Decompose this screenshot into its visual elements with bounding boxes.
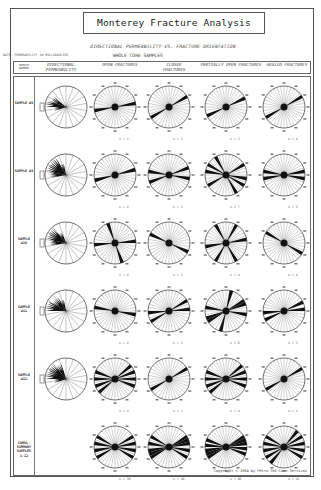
healed-fractures-rose-diagram	[258, 149, 310, 205]
sample-count-label: n = 2	[119, 341, 129, 345]
permeability-rose-diagram	[38, 217, 94, 273]
permeability-rose-diagram	[38, 353, 94, 409]
sample-count-label: n = 3	[288, 341, 298, 345]
sample-count-label: n = 4	[119, 409, 129, 413]
header-healed-fractures: HEALED FRACTURES	[266, 62, 308, 75]
partial-fractures-rose-diagram	[200, 149, 252, 205]
sample-count-label: n = 4	[288, 137, 298, 141]
sample-count-label: n = 4	[230, 409, 240, 413]
healed-fractures-rose-diagram	[258, 81, 310, 137]
column-divider	[34, 77, 35, 475]
document-frame: Monterey Fracture Analysis DIRECTIONAL P…	[10, 8, 314, 477]
units-note: NOTE: PERMEABILITY IN MILLIDARCIES	[3, 53, 68, 57]
partial-fractures-rose-diagram	[200, 285, 252, 341]
header-partially-open-fractures: PARTIALLY OPEN FRACTURES	[200, 62, 262, 75]
sample-count-label: n = 41	[288, 477, 300, 481]
closed-fractures-rose-diagram	[143, 353, 195, 409]
header-closed-fractures: CLOSED FRACTURES	[154, 62, 194, 75]
column-header-row: SAMPLE NUMBER DIRECTIONAL PERMEABILITY O…	[13, 61, 311, 74]
page-title: Monterey Fracture Analysis	[83, 12, 265, 34]
chart-grid: SAMPLE #6n = 1n = 3n = 3n = 4SAMPLE #8n …	[13, 76, 311, 476]
sample-count-label: n = 2	[119, 273, 129, 277]
closed-fractures-rose-diagram	[143, 81, 195, 137]
header-directional-permeability: DIRECTIONAL PERMEABILITY	[36, 62, 86, 75]
sample-count-label: n = 7	[230, 205, 240, 209]
open-fractures-rose-diagram	[89, 421, 141, 477]
subtitle: DIRECTIONAL PERMEABILITY VS. FRACTURE OR…	[11, 44, 315, 49]
open-fractures-rose-diagram	[89, 353, 141, 409]
header-sample: SAMPLE NUMBER	[14, 62, 34, 76]
sample-count-label: n = 1	[173, 409, 183, 413]
row-label: SAMPLE #6	[14, 101, 34, 105]
sample-count-label: n = 6	[230, 341, 240, 345]
row-label: SAMPLE #12	[14, 373, 34, 381]
sample-count-label: n = 1	[288, 409, 298, 413]
sample-count-label: n = 3	[173, 341, 183, 345]
row-label: CUMUL. SUMMARY SAMPLES 1-12	[14, 441, 34, 458]
permeability-rose-diagram	[38, 149, 94, 205]
sample-count-label: n = 2	[173, 205, 183, 209]
sample-count-label: n = 4	[288, 273, 298, 277]
open-fractures-rose-diagram	[89, 81, 141, 137]
healed-fractures-rose-diagram	[258, 353, 310, 409]
open-fractures-rose-diagram	[89, 149, 141, 205]
sample-count-label: n = 3	[230, 137, 240, 141]
open-fractures-rose-diagram	[89, 285, 141, 341]
sample-count-label: n = 2	[288, 205, 298, 209]
row-label: SAMPLE #8	[14, 169, 34, 173]
row-label: SAMPLE #10	[14, 237, 34, 245]
sample-count-label: n = 4	[230, 273, 240, 277]
partial-fractures-rose-diagram	[200, 217, 252, 273]
row-label: SAMPLE #11	[14, 305, 34, 313]
section-label: WHOLE CORE SAMPLES	[113, 53, 163, 58]
open-fractures-rose-diagram	[89, 217, 141, 273]
header-open-fractures: OPEN FRACTURES	[100, 62, 140, 75]
sample-count-label: n = 2	[173, 273, 183, 277]
closed-fractures-rose-diagram	[143, 421, 195, 477]
sample-count-label: n = 86	[230, 477, 242, 481]
sample-count-label: n = 3	[173, 137, 183, 141]
sample-count-label: n = 2	[119, 205, 129, 209]
sample-count-label: n = 39	[119, 477, 131, 481]
partial-fractures-rose-diagram	[200, 81, 252, 137]
sample-count-label: n = 1	[119, 137, 129, 141]
healed-fractures-rose-diagram	[258, 217, 310, 273]
closed-fractures-rose-diagram	[143, 285, 195, 341]
healed-fractures-rose-diagram	[258, 285, 310, 341]
closed-fractures-rose-diagram	[143, 149, 195, 205]
copyright-notice: Copyright © 1984 by Petro Tek Core Servi…	[214, 469, 307, 473]
permeability-rose-diagram	[38, 285, 94, 341]
permeability-rose-diagram	[38, 81, 94, 137]
sample-count-label: n = 40	[173, 477, 185, 481]
partial-fractures-rose-diagram	[200, 353, 252, 409]
closed-fractures-rose-diagram	[143, 217, 195, 273]
